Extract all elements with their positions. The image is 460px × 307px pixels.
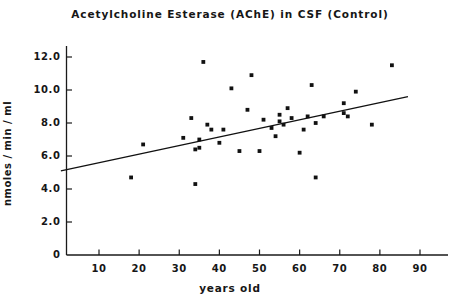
data-point [141, 143, 145, 147]
x-tick-label: 90 [398, 263, 442, 274]
x-tick-label: 80 [358, 263, 402, 274]
data-point [230, 86, 234, 90]
data-point [201, 60, 205, 64]
y-tick-label: 2.0 [15, 216, 61, 227]
data-point [129, 176, 133, 180]
x-tick-label: 20 [117, 263, 161, 274]
data-point [290, 116, 294, 120]
data-point [342, 111, 346, 115]
data-point [278, 113, 282, 117]
data-point [250, 73, 254, 77]
data-point [306, 115, 310, 119]
y-tick-label: 10.0 [15, 84, 61, 95]
data-point [221, 128, 225, 132]
x-axis-title: years old [0, 282, 460, 294]
data-point [193, 182, 197, 186]
data-point [354, 90, 358, 94]
data-point [314, 121, 318, 125]
tick-marks [67, 57, 421, 255]
data-point [197, 146, 201, 150]
data-point [302, 128, 306, 132]
x-tick-label: 70 [318, 263, 362, 274]
x-tick-label: 50 [238, 263, 282, 274]
chart-figure: Acetylcholine Esterase (AChE) in CSF (Co… [0, 0, 460, 307]
y-tick-label: 6.0 [15, 150, 61, 161]
data-point [205, 123, 209, 127]
y-axis-title: nmoles / min / ml [1, 79, 12, 229]
data-point [370, 123, 374, 127]
data-point [217, 141, 221, 145]
y-tick-label: 8.0 [15, 117, 61, 128]
data-point [197, 138, 201, 142]
plot-area [0, 0, 460, 307]
data-point [262, 118, 266, 122]
data-point [274, 134, 278, 138]
data-point [278, 119, 282, 123]
data-point-group [129, 60, 394, 186]
data-point [238, 149, 242, 153]
data-point [298, 151, 302, 155]
x-tick-label: 40 [197, 263, 241, 274]
x-tick-label: 10 [77, 263, 121, 274]
data-point [193, 148, 197, 152]
data-point [346, 115, 350, 119]
trend-line [61, 97, 408, 171]
data-point [390, 63, 394, 67]
x-tick-label: 60 [278, 263, 322, 274]
data-point [322, 115, 326, 119]
data-point [342, 101, 346, 105]
axis-lines [67, 46, 449, 255]
x-tick-label: 30 [157, 263, 201, 274]
data-point [258, 149, 262, 153]
data-point [286, 106, 290, 110]
data-point [209, 128, 213, 132]
data-point [270, 126, 274, 130]
data-point [246, 108, 250, 112]
data-point [310, 83, 314, 87]
data-point [181, 136, 185, 140]
y-tick-label: 12.0 [15, 51, 61, 62]
y-tick-label: 0 [15, 249, 61, 260]
data-point [314, 176, 318, 180]
data-point [189, 116, 193, 120]
regression-line [61, 97, 408, 171]
y-tick-label: 4.0 [15, 183, 61, 194]
data-point [282, 123, 286, 127]
